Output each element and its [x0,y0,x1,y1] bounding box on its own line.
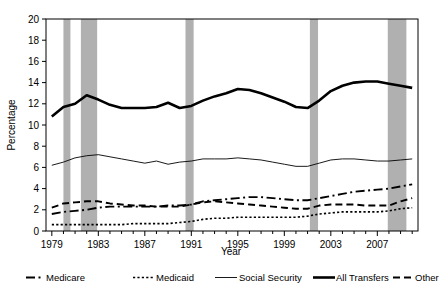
y-tick-label: 0 [33,226,39,237]
series-line-medicaid [52,208,412,225]
shaded-band-recession-1990-1991 [186,19,194,231]
series-line-all-transfers [52,82,412,117]
data-series-group [52,82,412,225]
line-chart: Percentage 02468101214161820 19791983198… [0,0,442,295]
x-axis-title: Year [221,246,242,257]
y-tick-label: 10 [28,120,40,131]
y-tick-label: 8 [33,141,39,152]
x-tick-label: 1983 [87,239,110,250]
y-tick-label: 6 [33,162,39,173]
x-tick-label: 1999 [273,239,296,250]
legend-label-social-security: Social Security [239,272,302,283]
y-tick-label: 14 [28,77,40,88]
legend-label-all-transfers: All Transfers [336,272,389,283]
x-tick-label: 1987 [134,239,157,250]
y-tick-label: 18 [28,35,40,46]
y-tick-label: 16 [28,56,40,67]
chart-figure: Percentage 02468101214161820 19791983198… [0,0,442,295]
x-tick-label: 1979 [41,239,64,250]
x-tick-label: 2007 [366,239,389,250]
shaded-band-recession-2007-2009 [388,19,407,231]
x-tick-label: 1991 [180,239,203,250]
y-axis-title: Percentage [6,99,17,151]
chart-legend: MedicareMedicaidSocial SecurityAll Trans… [26,272,439,283]
legend-label-medicaid: Medicaid [156,272,194,283]
y-axis-ticks: 02468101214161820 [28,14,46,237]
shaded-band-recession-1981-1982 [81,19,97,231]
legend-label-medicare: Medicare [46,272,85,283]
shaded-band-recession-1980 [63,19,70,231]
y-tick-label: 2 [33,204,39,215]
y-tick-label: 20 [28,14,40,25]
series-line-social-security [52,155,412,167]
y-tick-label: 12 [28,98,40,109]
series-line-medicare [52,184,412,214]
x-tick-label: 2003 [320,239,343,250]
legend-label-other: Other [415,272,439,283]
y-tick-label: 4 [33,183,39,194]
